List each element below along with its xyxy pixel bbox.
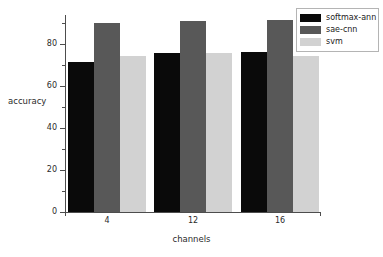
x-axis-line xyxy=(65,212,321,213)
bar-sae-cnn-12 xyxy=(180,21,206,212)
bar-chart-figure: 020406080 accuracy 41216 channels softma… xyxy=(0,0,383,257)
x-tick-label: 4 xyxy=(87,216,127,225)
legend-label-softmax-ann: softmax-ann xyxy=(326,13,376,22)
bar-softmax-ann-4 xyxy=(68,62,94,212)
x-axis-cap-right xyxy=(320,212,321,216)
legend-swatch-svm xyxy=(300,38,321,46)
x-tick-label: 16 xyxy=(260,216,300,225)
x-tick-label: 12 xyxy=(173,216,213,225)
bar-svm-4 xyxy=(120,56,146,212)
legend-swatch-sae-cnn xyxy=(300,26,321,34)
bar-sae-cnn-4 xyxy=(94,23,120,212)
bar-svm-12 xyxy=(206,53,232,212)
legend: softmax-annsae-cnnsvm xyxy=(296,8,379,52)
bar-svm-16 xyxy=(293,56,319,212)
bar-softmax-ann-16 xyxy=(241,52,267,212)
legend-item-softmax-ann: softmax-ann xyxy=(300,12,375,23)
legend-item-svm: svm xyxy=(300,36,375,47)
y-tick-mark xyxy=(60,212,66,213)
bar-softmax-ann-12 xyxy=(154,53,180,212)
bar-sae-cnn-16 xyxy=(267,20,293,212)
legend-item-sae-cnn: sae-cnn xyxy=(300,24,375,35)
x-axis-title: channels xyxy=(0,234,383,244)
legend-label-svm: svm xyxy=(326,37,343,46)
legend-swatch-softmax-ann xyxy=(300,14,321,22)
legend-label-sae-cnn: sae-cnn xyxy=(326,25,357,34)
